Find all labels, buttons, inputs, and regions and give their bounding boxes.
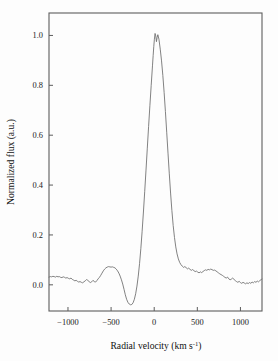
x-axis-title: Radial velocity (km s-1) [110,340,201,352]
x-tick-label: −500 [102,318,119,327]
x-tick-label: 1000 [232,318,249,327]
y-tick-label: 0.6 [33,131,43,140]
x-tick-label: −1000 [57,318,78,327]
x-axis-title-group: Radial velocity (km s-1) [110,340,201,352]
spectral-line-figure: −1000−50005001000 0.00.20.40.60.81.0 Rad… [0,0,278,361]
x-tick-label: 0 [152,318,156,327]
y-tick-label: 0.8 [33,81,43,90]
y-axis-title: Normalized flux (a.u.) [5,119,17,205]
y-axis-title-group: Normalized flux (a.u.) [5,119,17,205]
y-tick-label: 1.0 [33,31,43,40]
x-tick-label: 500 [191,318,204,327]
y-tick-label: 0.4 [33,181,44,190]
y-tick-label: 0.0 [33,281,43,290]
y-tick-label: 0.2 [33,231,43,240]
x-axis-title-tail: ) [198,340,201,352]
x-axis-title-main: Radial velocity (km s [110,340,193,352]
plot-canvas: −1000−50005001000 0.00.20.40.60.81.0 Rad… [0,0,278,361]
